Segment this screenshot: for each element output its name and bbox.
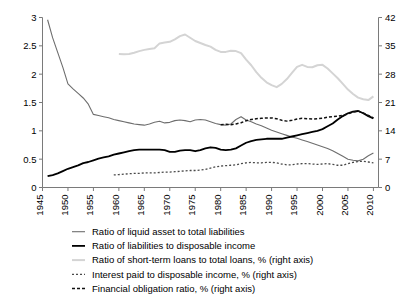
y2-tick-label: 14: [385, 125, 396, 136]
x-axis: 1945195019551960196519701975198019851990…: [34, 188, 376, 216]
y2-tick-label: 35: [385, 40, 396, 51]
y-tick-label: 0.5: [23, 154, 36, 165]
y-tick-label: 2.5: [23, 40, 36, 51]
x-tick-label: 1995: [288, 195, 299, 216]
legend-item[interactable]: Interest paid to disposable income, % (r…: [72, 269, 297, 280]
y-tick-label: 1.5: [23, 97, 36, 108]
chart-legend: Ratio of liquid asset to total liabiliti…: [72, 226, 313, 294]
x-tick-label: 1950: [59, 195, 70, 216]
y-axis-right: 071421283542: [379, 12, 396, 193]
x-tick-label: 1960: [110, 195, 121, 216]
series-line-1: [48, 111, 374, 176]
legend-item[interactable]: Ratio of short-term loans to total loans…: [72, 254, 313, 265]
y-tick-label: 0: [31, 182, 36, 193]
x-tick-label: 1955: [84, 195, 95, 216]
legend-item[interactable]: Financial obligation ratio, % (right axi…: [72, 283, 255, 294]
x-tick-label: 1945: [34, 195, 45, 216]
y-tick-label: 2: [31, 69, 36, 80]
legend-item[interactable]: Ratio of liabilities to disposable incom…: [72, 240, 255, 251]
y2-tick-label: 28: [385, 69, 396, 80]
legend-label: Interest paid to disposable income, % (r…: [92, 269, 297, 280]
chart-figure: 00.511.522.53071421283542194519501955196…: [0, 0, 415, 299]
y2-tick-label: 42: [385, 12, 396, 23]
x-tick-label: 1985: [237, 194, 248, 215]
series-line-2: [119, 35, 374, 101]
legend-label: Ratio of short-term loans to total loans…: [92, 254, 313, 265]
x-tick-label: 1970: [161, 195, 172, 216]
y-tick-label: 1: [31, 125, 36, 136]
x-tick-label: 2010: [364, 195, 375, 216]
x-tick-label: 2000: [314, 195, 325, 216]
series-group: [48, 20, 374, 176]
x-tick-label: 1965: [135, 195, 146, 216]
x-tick-label: 1975: [186, 195, 197, 216]
axis-spines: [43, 18, 379, 188]
x-tick-label: 2005: [339, 195, 350, 216]
series-line-3: [114, 161, 374, 175]
y2-tick-label: 0: [385, 182, 390, 193]
line-chart: 00.511.522.53071421283542194519501955196…: [0, 0, 415, 299]
y2-tick-label: 7: [385, 154, 390, 165]
legend-label: Ratio of liquid asset to total liabiliti…: [92, 226, 245, 237]
legend-label: Financial obligation ratio, % (right axi…: [92, 283, 255, 294]
series-line-0: [48, 20, 374, 161]
plot-frame: [43, 18, 379, 188]
legend-label: Ratio of liabilities to disposable incom…: [92, 240, 255, 251]
x-tick-label: 1990: [263, 195, 274, 216]
y-axis-left: 00.511.522.53: [23, 12, 42, 193]
x-tick-label: 1980: [212, 195, 223, 216]
y-tick-label: 3: [31, 12, 36, 23]
legend-item[interactable]: Ratio of liquid asset to total liabiliti…: [72, 226, 245, 237]
y2-tick-label: 21: [385, 97, 396, 108]
